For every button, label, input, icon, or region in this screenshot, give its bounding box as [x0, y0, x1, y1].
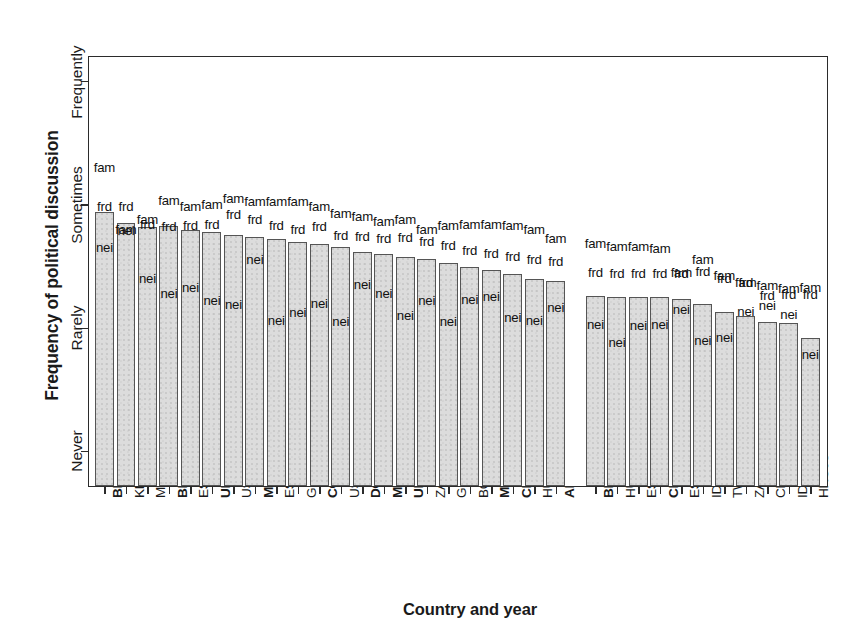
marker-frd-mex18: frd — [376, 233, 391, 246]
marker-frd-usa04: frd — [226, 208, 241, 221]
x-tick-mark — [319, 487, 320, 494]
marker-nei-usa12: nei — [332, 315, 349, 328]
bar-moz04 — [138, 227, 157, 486]
marker-nei-esp04: nei — [673, 303, 690, 316]
bar-ury04 — [202, 232, 221, 486]
bar-grc96 — [439, 263, 458, 486]
marker-fam-esp93: fam — [628, 240, 649, 253]
marker-nei-zaf09: nei — [418, 294, 435, 307]
marker-frd-col14: frd — [312, 221, 327, 234]
marker-fam-mex12: fam — [244, 196, 265, 209]
x-tick-mark — [556, 487, 557, 494]
marker-frd-idn09: frd — [781, 288, 796, 301]
x-tick-mark — [681, 487, 682, 494]
bar-mex12 — [245, 237, 264, 486]
marker-nei-bgr96: nei — [461, 293, 478, 306]
marker-fam-bra14: fam — [585, 238, 606, 251]
x-tick-mark — [384, 487, 385, 494]
x-tick-mark — [126, 487, 127, 494]
bar-hun98 — [525, 279, 544, 486]
bar-chn08 — [758, 322, 777, 486]
y-tick-label-sometimes: Sometimes — [68, 150, 86, 260]
marker-frd-zaf04: frd — [738, 276, 753, 289]
marker-frd-mex12: frd — [247, 213, 262, 226]
marker-nei-arg07: nei — [547, 302, 564, 315]
chart-figure: Frequency of political discussion Countr… — [0, 0, 851, 638]
x-tick-mark — [595, 487, 596, 494]
x-tick-mark — [405, 487, 406, 494]
marker-nei-idn04: nei — [694, 334, 711, 347]
bar-hun06 — [607, 297, 626, 486]
bar-col14 — [310, 244, 329, 486]
marker-nei-grc04: nei — [289, 307, 306, 320]
marker-nei-ken12: nei — [117, 224, 134, 237]
marker-fam-grc96: fam — [438, 219, 459, 232]
plot-area: famfrdneifamfrdneifamfrdneifamfrdneifamf… — [88, 56, 828, 487]
marker-fam-hun98: fam — [523, 223, 544, 236]
bar-bra06 — [159, 226, 178, 486]
marker-fam-ury04: fam — [201, 198, 222, 211]
x-tick-mark — [534, 487, 535, 494]
marker-frd-twn04: frd — [717, 272, 732, 285]
marker-fam-esp11: fam — [180, 201, 201, 214]
marker-frd-mex06: frd — [484, 248, 499, 261]
marker-nei-esp93: nei — [630, 319, 647, 332]
y-axis-title: Frequency of political discussion — [42, 36, 63, 496]
marker-nei-hun06: nei — [608, 336, 625, 349]
marker-fam-bra02: fam — [94, 161, 115, 174]
y-tick-label-never: Never — [68, 396, 86, 506]
x-tick-mark — [169, 487, 170, 494]
marker-nei-chn08: nei — [759, 299, 776, 312]
x-tick-mark — [427, 487, 428, 494]
marker-fam-grc04: fam — [287, 196, 308, 209]
x-tick-mark — [362, 487, 363, 494]
bar-ken12 — [117, 223, 136, 486]
x-tick-mark — [617, 487, 618, 494]
x-tick-mark — [448, 487, 449, 494]
marker-frd-chl00: frd — [505, 250, 520, 263]
x-tick-mark — [638, 487, 639, 494]
marker-frd-chl93: frd — [652, 267, 667, 280]
marker-nei-chl00: nei — [504, 312, 521, 325]
marker-frd-bra02: frd — [97, 201, 112, 214]
marker-frd-bra06: frd — [162, 221, 177, 234]
marker-fam-bra06: fam — [158, 195, 179, 208]
marker-frd-esp04: frd — [674, 267, 689, 280]
x-tick-mark — [298, 487, 299, 494]
x-tick-mark — [341, 487, 342, 494]
marker-frd-bra14: frd — [588, 266, 603, 279]
marker-frd-esp11: frd — [183, 219, 198, 232]
x-tick-mark — [724, 487, 725, 494]
marker-frd-ury94: frd — [398, 232, 413, 245]
x-tick-mark — [789, 487, 790, 494]
x-tick-mark — [212, 487, 213, 494]
bar-chl00 — [503, 274, 522, 486]
bar-idn04 — [693, 304, 712, 486]
marker-nei-bra06: nei — [160, 287, 177, 300]
marker-frd-hun06: frd — [609, 267, 624, 280]
marker-fam-mex06: fam — [480, 218, 501, 231]
marker-nei-zaf04: nei — [737, 306, 754, 319]
marker-frd-esp15: frd — [269, 219, 284, 232]
marker-fam-mex18: fam — [373, 216, 394, 229]
marker-fam-chl93: fam — [649, 243, 670, 256]
x-tick-mark — [147, 487, 148, 494]
marker-nei-usa04: nei — [225, 298, 242, 311]
marker-fam-esp15: fam — [266, 196, 287, 209]
marker-fam-dom10: fam — [352, 211, 373, 224]
marker-nei-chl93: nei — [651, 318, 668, 331]
marker-frd-hun98: frd — [527, 254, 542, 267]
bar-esp11 — [181, 230, 200, 486]
marker-frd-grc96: frd — [441, 239, 456, 252]
marker-frd-moz04: frd — [140, 218, 155, 231]
bar-ury94 — [396, 257, 415, 486]
marker-nei-esp11: nei — [182, 281, 199, 294]
marker-nei-mex12: nei — [246, 254, 263, 267]
marker-fam-usa04: fam — [223, 192, 244, 205]
marker-nei-bra02: nei — [96, 241, 113, 254]
x-tick-mark — [491, 487, 492, 494]
bar-usa04 — [224, 235, 243, 486]
bar-esp15 — [267, 239, 286, 486]
marker-frd-zaf09: frd — [419, 235, 434, 248]
x-tick-mark — [810, 487, 811, 494]
